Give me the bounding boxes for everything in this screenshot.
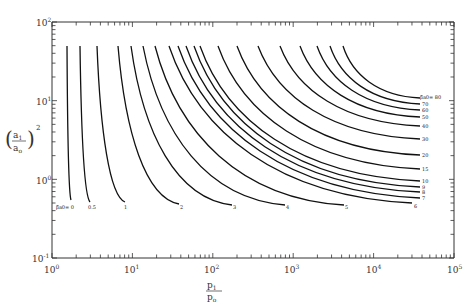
curve-label: 9 xyxy=(422,184,425,190)
curve-label: 70 xyxy=(422,101,428,107)
curve-label: 50 xyxy=(422,114,428,120)
curve-0 xyxy=(67,46,71,200)
x-tick-label: 100 xyxy=(44,263,59,275)
curve-80 xyxy=(343,46,420,98)
x-tick-label: 105 xyxy=(447,263,462,275)
curve-label: 2 xyxy=(180,204,183,210)
curve-label: 20 xyxy=(422,152,428,158)
x-tick-label: 102 xyxy=(204,263,219,275)
curve-label: 0.5 xyxy=(88,204,96,210)
curve-label: 6 xyxy=(414,203,417,209)
curve-label: 30 xyxy=(422,136,428,142)
x-axis-ticks xyxy=(52,22,454,258)
x-tick-label: 103 xyxy=(284,263,299,275)
svg-text:a1: a1 xyxy=(13,130,22,141)
curve-15 xyxy=(218,46,420,169)
curve-label: 40 xyxy=(422,123,428,129)
curve-label: 1 xyxy=(124,204,127,210)
svg-text:po: po xyxy=(207,292,217,303)
curve-label: 60 xyxy=(422,107,428,113)
curve-0.5 xyxy=(80,46,90,202)
curve-4 xyxy=(143,46,285,205)
y-tick-label: 101 xyxy=(36,95,51,107)
curve-label: β̂a0= 80 xyxy=(420,94,441,101)
curve-label: 15 xyxy=(422,166,428,172)
x-tick-label: 104 xyxy=(366,263,381,275)
curve-5 xyxy=(155,46,344,205)
svg-text:p1: p1 xyxy=(207,280,217,291)
curve-6 xyxy=(169,46,412,203)
plot-frame xyxy=(52,22,454,258)
svg-text:): ) xyxy=(27,127,35,151)
y-tick-label: 102 xyxy=(36,16,51,28)
x-tick-labels: 100 101 102 103 104 105 xyxy=(44,263,462,275)
curve-label: 3 xyxy=(233,204,236,210)
svg-text:(: ( xyxy=(5,127,13,151)
chart: β̂a0= 00.51234567891015203040506070β̂a0=… xyxy=(0,0,474,303)
curves xyxy=(67,46,420,205)
x-axis-title: p1 po xyxy=(206,280,222,303)
curve-label: β̂a0= 0 xyxy=(56,204,74,211)
x-tick-label: 101 xyxy=(124,263,139,275)
curve-label: 4 xyxy=(286,204,289,210)
curve-30 xyxy=(258,46,420,139)
y-axis-title: ( a1 ao ) 2 xyxy=(5,124,40,154)
curve-70 xyxy=(330,46,420,104)
curve-label: 7 xyxy=(422,195,425,201)
svg-text:2: 2 xyxy=(36,124,40,132)
y-axis-ticks xyxy=(52,22,454,258)
curve-label: 5 xyxy=(345,204,348,210)
curve-50 xyxy=(300,46,420,117)
y-tick-label: 10-1 xyxy=(32,252,49,264)
curve-40 xyxy=(280,46,420,126)
curve-60 xyxy=(317,46,420,110)
curve-label: 10 xyxy=(422,178,428,184)
svg-text:ao: ao xyxy=(13,143,22,154)
y-tick-labels: 102 101 100 10-1 xyxy=(32,16,51,264)
y-tick-label: 100 xyxy=(36,174,51,186)
